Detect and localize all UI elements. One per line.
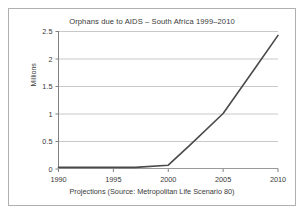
plot-area: 00.511.522.5 19901995200020052010 [9,9,297,207]
y-tick-label: 1 [48,110,52,119]
y-tick-label: 0.5 [42,137,52,146]
y-axis-ticks: 00.511.522.5 [42,27,58,174]
x-tick-label: 2005 [215,175,231,184]
y-tick-label: 2 [48,55,52,64]
x-axis-caption: Projections (Source: Metropolitan Life S… [9,187,295,196]
figure-frame: Orphans due to AIDS – South Africa 1999–… [8,8,296,206]
x-tick-label: 1990 [50,175,66,184]
y-tick-label: 1.5 [42,82,52,91]
x-axis-ticks: 19901995200020052010 [50,169,286,184]
y-tick-label: 0 [48,165,52,174]
x-tick-label: 2010 [270,175,286,184]
data-series-line [59,35,279,167]
gridlines [59,32,279,142]
x-tick-label: 2000 [160,175,176,184]
x-tick-label: 1995 [105,175,121,184]
y-tick-label: 2.5 [42,27,52,36]
